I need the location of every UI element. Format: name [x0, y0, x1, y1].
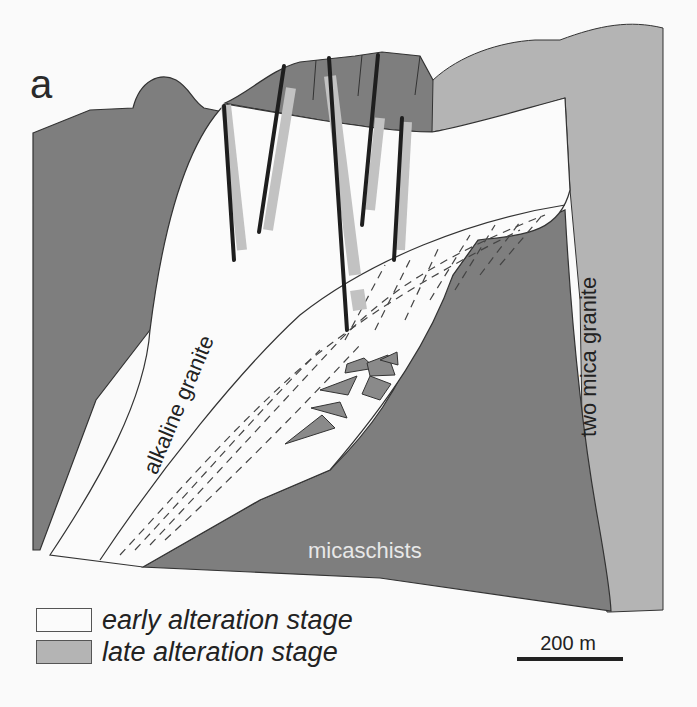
scale-bar: 200 m	[498, 632, 638, 661]
legend-label-late: late alteration stage	[102, 637, 338, 668]
micaschists-label: micaschists	[308, 538, 422, 564]
scale-line	[517, 657, 623, 661]
legend-item-early: early alteration stage	[36, 604, 353, 636]
early-alteration-swatch	[36, 608, 92, 632]
legend-item-late: late alteration stage	[36, 636, 353, 668]
two-mica-granite-label: two mica granite	[576, 277, 602, 437]
scale-label: 200 m	[498, 632, 638, 655]
legend: early alteration stage late alteration s…	[36, 604, 353, 668]
legend-label-early: early alteration stage	[102, 605, 353, 636]
panel-label: a	[30, 62, 52, 107]
late-alteration-swatch	[36, 640, 92, 664]
